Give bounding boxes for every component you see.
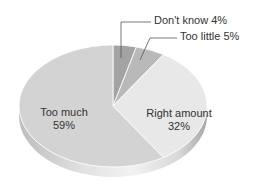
label-too-much-name: Too much [34, 106, 94, 119]
label-too-much-pct: 59% [34, 119, 94, 132]
label-right-amount-pct: 32% [131, 120, 227, 133]
pie-chart [0, 0, 254, 190]
label-too-little: Too little 5% [180, 30, 239, 43]
label-right-amount: Right amount 32% [131, 107, 227, 133]
label-right-amount-name: Right amount [131, 107, 227, 120]
label-dont-know: Don't know 4% [154, 14, 227, 27]
label-too-much: Too much 59% [34, 106, 94, 132]
